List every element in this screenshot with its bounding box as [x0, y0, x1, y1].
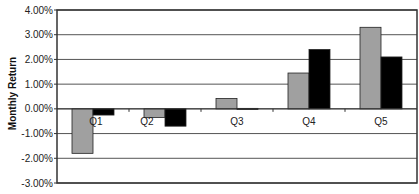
category-label-q3: Q3 [230, 116, 244, 127]
y-tick-label: 1.00% [25, 79, 53, 90]
y-tick-label: -2.00% [21, 153, 53, 164]
bar-q5-series-2 [381, 57, 402, 109]
category-label-q4: Q4 [302, 116, 316, 127]
y-axis-title: Monthly Return [7, 44, 18, 144]
bar-q3-series-1 [216, 98, 237, 108]
y-tick-label: 3.00% [25, 29, 53, 40]
y-tick-label: 4.00% [25, 5, 53, 16]
category-label-q1: Q1 [89, 116, 103, 127]
y-tick-label: -1.00% [21, 128, 53, 139]
bar-q5-series-1 [360, 27, 381, 109]
chart-canvas: 4.00%3.00%2.00%1.00%0.00%-1.00%-2.00%-3.… [0, 0, 419, 194]
y-tick-label: -3.00% [21, 178, 53, 189]
y-tick-label: 2.00% [25, 54, 53, 65]
category-label-q5: Q5 [374, 116, 388, 127]
bar-q4-series-2 [309, 50, 330, 109]
bar-q2-series-2 [165, 109, 186, 126]
category-label-q2: Q2 [140, 116, 154, 127]
bar-q4-series-1 [288, 73, 309, 109]
y-tick-label: 0.00% [25, 103, 53, 114]
bar-chart: 4.00%3.00%2.00%1.00%0.00%-1.00%-2.00%-3.… [0, 0, 419, 194]
bar-q1-series-2 [93, 109, 114, 115]
